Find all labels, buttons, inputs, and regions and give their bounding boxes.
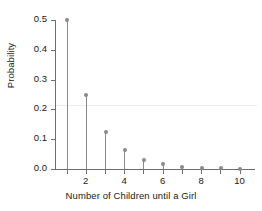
faint-horizontal-rule	[50, 105, 257, 106]
x-tick-mark	[220, 170, 221, 174]
x-tick-mark	[67, 170, 68, 174]
x-tick-mark	[124, 170, 125, 174]
y-tick-label: 0.2	[7, 102, 47, 113]
x-tick-mark	[86, 170, 87, 174]
stem-line	[67, 20, 68, 169]
data-point-marker	[142, 158, 146, 162]
plot-area: 0.00.10.20.30.40.5 246810	[55, 14, 255, 170]
probability-stem-chart: Probability 0.00.10.20.30.40.5 246810 Nu…	[0, 0, 262, 211]
x-tick-mark	[143, 170, 144, 174]
y-tick-label: 0.3	[7, 73, 47, 84]
stem-line	[86, 95, 87, 170]
y-tick-mark	[51, 80, 56, 81]
y-tick-mark	[51, 169, 56, 170]
data-point-marker	[161, 162, 165, 166]
y-tick-mark	[51, 139, 56, 140]
x-axis-label: Number of Children until a Girl	[0, 190, 262, 201]
x-tick-mark	[105, 170, 106, 174]
y-tick-mark	[51, 20, 56, 21]
y-axis-label: Probability	[5, 26, 16, 106]
data-point-marker	[104, 130, 108, 134]
y-tick-label: 0.1	[7, 132, 47, 143]
x-tick-mark	[182, 170, 183, 174]
data-point-marker	[123, 148, 127, 152]
data-point-marker	[84, 93, 88, 97]
data-point-marker	[65, 18, 69, 22]
x-tick-label: 6	[148, 175, 178, 186]
x-tick-mark	[163, 170, 164, 174]
y-tick-label: 0.0	[7, 162, 47, 173]
data-point-marker	[238, 167, 242, 171]
y-tick-label: 0.4	[7, 43, 47, 54]
y-tick-label: 0.5	[7, 13, 47, 24]
x-tick-label: 4	[109, 175, 139, 186]
y-tick-mark	[51, 50, 56, 51]
x-tick-label: 8	[186, 175, 216, 186]
data-point-marker	[200, 166, 204, 170]
y-tick-mark	[51, 109, 56, 110]
x-tick-label: 2	[71, 175, 101, 186]
stem-line	[105, 132, 106, 169]
x-tick-mark	[201, 170, 202, 174]
stem-line	[124, 150, 125, 169]
x-tick-label: 10	[225, 175, 255, 186]
y-axis-line	[55, 20, 56, 170]
